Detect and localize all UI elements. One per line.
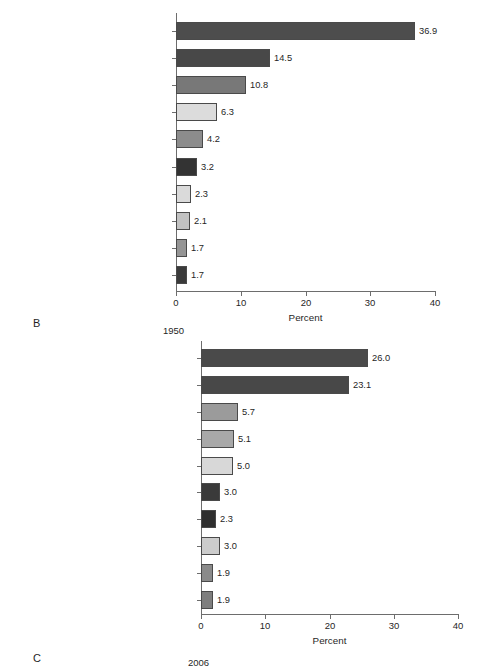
x-axis-tick (176, 292, 177, 296)
x-axis-tick-label: 40 (415, 297, 455, 308)
panel-letter-b: B (33, 317, 40, 329)
bar-value-label: 26.0 (372, 353, 390, 363)
bar-value-label: 10.8 (250, 80, 268, 90)
bar (176, 266, 187, 284)
bar (201, 591, 213, 609)
panel-letter-c: C (33, 652, 41, 664)
x-axis-tick-label: 20 (286, 297, 326, 308)
panel-c-2006: Heart diseases26.0Malignant neoplasms23.… (0, 330, 485, 668)
x-axis-tick-label: 0 (181, 620, 221, 631)
x-axis-tick (370, 292, 371, 296)
bar (176, 130, 203, 148)
bar (176, 76, 246, 94)
x-axis-tick-label: 10 (245, 620, 285, 631)
bar (201, 457, 233, 475)
bar-value-label: 1.9 (217, 568, 230, 578)
bar-value-label: 4.2 (207, 134, 220, 144)
bar (201, 510, 216, 528)
bar-value-label: 6.3 (221, 107, 234, 117)
bar-value-label: 1.7 (191, 270, 204, 280)
x-axis-tick-label: 10 (221, 297, 261, 308)
x-axis-tick (394, 615, 395, 619)
bar-value-label: 3.0 (224, 541, 237, 551)
bar-value-label: 5.7 (242, 407, 255, 417)
x-axis-tick (306, 292, 307, 296)
bar (176, 103, 217, 121)
bar (176, 22, 415, 40)
bar (176, 49, 270, 67)
bar-value-label: 3.2 (201, 162, 214, 172)
bar-value-label: 3.0 (224, 487, 237, 497)
bar (176, 212, 190, 230)
bar (201, 483, 220, 501)
bar (176, 185, 191, 203)
bar (201, 430, 234, 448)
x-axis-tick-label: 20 (310, 620, 350, 631)
bar-value-label: 14.5 (274, 53, 292, 63)
bar (201, 376, 349, 394)
x-axis-tick-label: 30 (374, 620, 414, 631)
bar-value-label: 36.9 (419, 26, 437, 36)
bar-value-label: 5.1 (238, 434, 251, 444)
x-axis-tick (201, 615, 202, 619)
bar-value-label: 23.1 (353, 380, 371, 390)
x-axis-title: Percent (161, 635, 485, 646)
x-axis-tick-label: 0 (156, 297, 196, 308)
panel-b-1950: Disease of the heart36.9Malignant neopla… (0, 0, 485, 340)
x-axis-tick (435, 292, 436, 296)
x-axis-tick (458, 615, 459, 619)
bar (201, 537, 220, 555)
x-axis-tick-label: 30 (350, 297, 390, 308)
bar (176, 158, 197, 176)
x-axis-tick (265, 615, 266, 619)
bar (201, 403, 238, 421)
bar-value-label: 2.3 (220, 514, 233, 524)
x-axis-title: Percent (136, 312, 475, 323)
panel-caption-2006: 2006 (188, 657, 209, 668)
bar (176, 239, 187, 257)
bar-value-label: 5.0 (237, 461, 250, 471)
x-axis-tick-label: 40 (438, 620, 478, 631)
bar-value-label: 2.3 (195, 189, 208, 199)
bar-value-label: 1.7 (191, 243, 204, 253)
x-axis-tick (241, 292, 242, 296)
bar (201, 564, 213, 582)
bar-value-label: 2.1 (194, 216, 207, 226)
bar-value-label: 1.9 (217, 595, 230, 605)
bar (201, 349, 368, 367)
x-axis-tick (330, 615, 331, 619)
